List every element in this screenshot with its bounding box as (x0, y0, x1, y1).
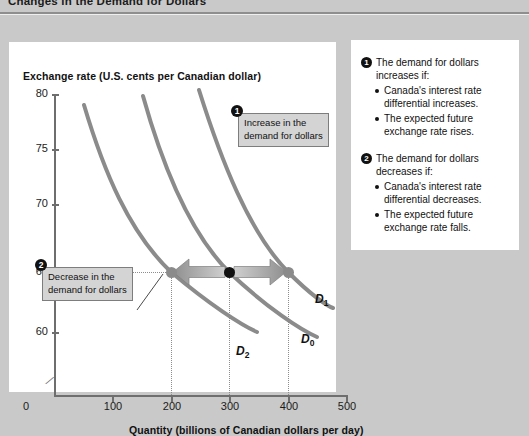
legend-item-2: 2 The demand for dollars decreases if: C… (361, 152, 511, 234)
callout-increase: Increase in the demand for dollars (238, 113, 329, 147)
legend-item-2-bullets: Canada's interest rate differential decr… (361, 180, 511, 234)
legend-item-1-heading: 1 The demand for dollars increases if: (361, 56, 511, 82)
callout-decrease-badge: 2 (35, 259, 47, 271)
legend-item-2-heading-text: The demand for dollars decreases if: (376, 153, 479, 177)
x-tick-label-300: 300 (213, 400, 247, 412)
x-tick-label-400: 400 (272, 400, 306, 412)
legend-panel: 1 The demand for dollars increases if: C… (351, 40, 519, 250)
legend-item-2-bullet-1: Canada's interest rate differential decr… (384, 180, 511, 206)
legend-item-1: 1 The demand for dollars increases if: C… (361, 56, 511, 138)
callout-decrease-line1: Decrease in the (48, 271, 127, 284)
legend-item-1-bullet-2: The expected future exchange rate rises. (384, 112, 511, 138)
legend-item-1-bullet-1: Canada's interest rate differential incr… (384, 84, 511, 110)
callout-decrease-line2: demand for dollars (48, 284, 127, 297)
legend-badge-1: 1 (361, 57, 372, 68)
callout-increase-badge: 1 (231, 105, 243, 117)
x-tick-label-500: 500 (330, 400, 364, 412)
figure-title: Changes in the Demand for Dollars (8, 0, 206, 7)
legend-badge-2: 2 (361, 153, 372, 164)
callout-leaders (9, 42, 336, 392)
legend-item-2-heading: 2 The demand for dollars decreases if: (361, 152, 511, 178)
x-axis-title: Quantity (billions of Canadian dollars p… (129, 424, 364, 436)
callout-increase-line1: Increase in the (244, 117, 323, 130)
callout-increase-line2: demand for dollars (244, 130, 323, 143)
chart-panel: Exchange rate (U.S. cents per Canadian d… (9, 42, 336, 392)
legend-item-1-bullets: Canada's interest rate differential incr… (361, 84, 511, 138)
callout-decrease-box: Decrease in the demand for dollars (42, 267, 133, 301)
x-tick-label-0: 0 (23, 400, 29, 412)
x-axis-line (54, 395, 347, 397)
legend-item-2-bullet-2: The expected future exchange rate falls. (384, 208, 511, 234)
x-tick-label-100: 100 (96, 400, 130, 412)
x-tick-label-200: 200 (155, 400, 189, 412)
title-divider-highlight (0, 14, 529, 15)
legend-item-1-heading-text: The demand for dollars increases if: (376, 57, 479, 81)
